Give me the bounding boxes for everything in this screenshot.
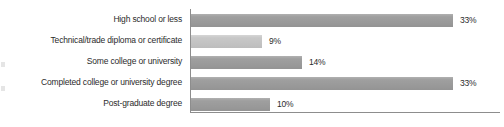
- category-label-technical-trade: Technical/trade diploma or certificate: [0, 35, 182, 45]
- plot-area: 33% 9% 14% 33% 10%: [190, 9, 504, 113]
- category-label-high-school: High school or less: [0, 14, 182, 24]
- bar-value-technical-trade: 9%: [269, 36, 281, 47]
- category-label-completed-college: Completed college or university degree: [0, 77, 182, 87]
- category-label-post-graduate: Post-graduate degree: [0, 98, 182, 108]
- bar-value-post-graduate: 10%: [277, 99, 294, 110]
- bar-technical-trade: [191, 35, 262, 48]
- bar-chart: High school or less Technical/trade dipl…: [0, 0, 504, 127]
- bar-value-some-college: 14%: [309, 57, 326, 68]
- bar-value-completed-college: 33%: [460, 78, 477, 89]
- x-axis-baseline: [190, 112, 500, 113]
- bar-high-school: [191, 14, 453, 27]
- category-label-some-college: Some college or university: [0, 56, 182, 66]
- category-axis-labels: High school or less Technical/trade dipl…: [0, 0, 186, 127]
- bar-value-high-school: 33%: [460, 15, 477, 26]
- bar-completed-college: [191, 77, 453, 90]
- bar-post-graduate: [191, 98, 270, 111]
- bar-some-college: [191, 56, 302, 69]
